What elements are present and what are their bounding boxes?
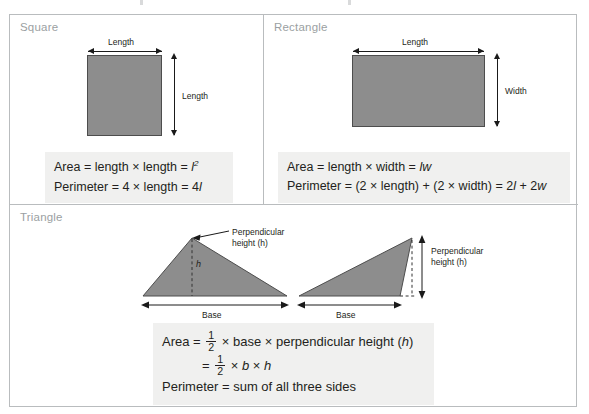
obtuse-triangle-callout-line2: height (h): [431, 257, 467, 268]
triangle-area-formula-simplified: = 12 × b × h: [162, 354, 425, 377]
obtuse-triangle-base-label: Base: [336, 310, 355, 321]
rectangle-right-arrow-down: [494, 121, 500, 127]
rectangle-perimeter-formula: Perimeter = (2 × length) + (2 × width) =…: [287, 177, 561, 196]
square-top-dim-line: [88, 51, 162, 52]
top-artifact-left: [140, 0, 143, 5]
triangle-formula-box: Area = 12 × base × perpendicular height …: [153, 323, 434, 405]
acute-triangle-base-arrow-left: [141, 302, 149, 309]
geometry-formula-figure: Square Length Length Area = length × len…: [9, 14, 577, 407]
square-top-arrow-right: [156, 48, 162, 54]
square-formula-box: Area = length × length = l2 Perimeter = …: [45, 152, 233, 203]
panel-square: Square Length Length Area = length × len…: [10, 15, 263, 204]
rectangle-top-arrow-right: [478, 48, 484, 54]
acute-triangle-base-arrow-right: [281, 302, 289, 309]
triangle-area-formula: Area = 12 × base × perpendicular height …: [162, 330, 425, 353]
square-right-dim-line: [174, 56, 175, 135]
rectangle-top-dim-line: [353, 51, 484, 52]
acute-triangle-height-variable: h: [196, 259, 201, 269]
rectangle-right-dim-line: [497, 56, 498, 126]
rectangle-right-label: Width: [505, 86, 527, 96]
obtuse-triangle-height-arrow-down: [419, 291, 426, 299]
square-area-formula: Area = length × length = l2: [54, 158, 224, 178]
square-right-arrow-down: [171, 130, 177, 136]
acute-triangle-base-label: Base: [202, 310, 221, 321]
acute-triangle-callout-line2: height (h): [232, 238, 268, 249]
obtuse-triangle-base-arrow-right: [394, 302, 402, 309]
square-shape: [87, 55, 162, 136]
panel-title-rectangle: Rectangle: [274, 21, 328, 33]
rectangle-shape: [352, 55, 485, 127]
rectangle-top-label: Length: [402, 37, 428, 47]
obtuse-triangle-shape: [299, 238, 412, 296]
triangle-diagrams: [10, 219, 578, 324]
obtuse-triangle-base-arrow-left: [297, 302, 305, 309]
panel-triangle: Triangle Perpendicular: [10, 205, 578, 408]
rectangle-formula-box: Area = length × width = lw Perimeter = (…: [278, 152, 570, 203]
top-artifact-right: [348, 0, 351, 5]
square-right-label: Length: [182, 91, 208, 101]
panel-title-square: Square: [20, 21, 58, 33]
rectangle-right-arrow-up: [494, 53, 500, 59]
triangle-perimeter-formula: Perimeter = sum of all three sides: [162, 377, 425, 397]
square-top-arrow-left: [88, 48, 94, 54]
obtuse-triangle-callout-line1: Perpendicular: [431, 246, 483, 257]
square-perimeter-formula: Perimeter = 4 × length = 4l: [54, 178, 224, 197]
rectangle-top-arrow-left: [353, 48, 359, 54]
square-top-label: Length: [108, 37, 134, 47]
obtuse-triangle-height-arrow-up: [419, 235, 426, 243]
rectangle-area-formula: Area = length × width = lw: [287, 158, 561, 177]
square-right-arrow-up: [171, 53, 177, 59]
panel-rectangle: Rectangle Length Width Area = length × w…: [264, 15, 578, 204]
acute-triangle-callout-line1: Perpendicular: [232, 227, 284, 238]
